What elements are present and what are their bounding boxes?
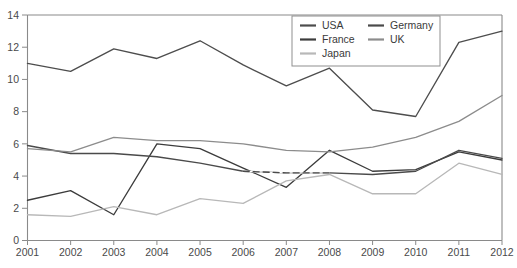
x-tick-label: 2011 (448, 246, 471, 258)
x-tick-label: 2009 (361, 246, 385, 258)
line-chart: 02468101214 2001200220032004200520062007… (0, 0, 517, 268)
y-tick-label: 14 (7, 9, 19, 21)
y-tick-label: 8 (13, 105, 19, 117)
x-tick-label: 2006 (232, 246, 256, 258)
series-line-germany (28, 145, 503, 174)
y-tick-label: 0 (13, 234, 19, 246)
x-tick-label: 2008 (318, 246, 342, 258)
series-line-uk (28, 96, 503, 152)
x-tick-label: 2004 (145, 246, 169, 258)
series-line-germany-dashed-segment (243, 171, 329, 173)
legend-label-usa: USA (322, 19, 344, 31)
legend-label-germany: Germany (390, 19, 434, 31)
y-tick-label: 4 (13, 170, 19, 182)
legend-label-uk: UK (390, 33, 405, 45)
series-line-japan (28, 163, 503, 216)
legend-label-france: France (322, 33, 355, 45)
x-tick-label: 2003 (102, 246, 126, 258)
x-tick-label: 2002 (59, 246, 83, 258)
series-line-france (28, 144, 503, 215)
y-tick-label: 12 (7, 41, 19, 53)
x-tick-label: 2001 (16, 246, 40, 258)
legend-label-japan: Japan (322, 47, 351, 59)
y-tick-label: 10 (7, 73, 19, 85)
y-tick-label: 2 (13, 202, 19, 214)
chart-canvas: 02468101214 2001200220032004200520062007… (0, 0, 517, 268)
x-tick-label: 2012 (490, 246, 514, 258)
x-tick-label: 2007 (275, 246, 299, 258)
x-tick-label: 2005 (188, 246, 212, 258)
x-axis: 2001200220032004200520062007200820092010… (16, 241, 514, 259)
chart-legend: USAGermanyFranceUKJapan (292, 16, 440, 66)
y-axis: 02468101214 (7, 9, 27, 247)
y-tick-label: 6 (13, 138, 19, 150)
x-tick-label: 2010 (404, 246, 428, 258)
